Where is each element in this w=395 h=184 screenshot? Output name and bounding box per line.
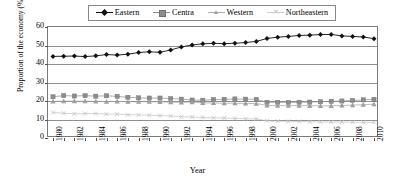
data-point xyxy=(168,47,173,52)
data-point xyxy=(51,95,55,99)
data-point xyxy=(254,97,258,101)
chart-figure: Eastern Centra Western ✕ Northeastern Pr… xyxy=(0,0,395,184)
legend-marker-square-icon xyxy=(153,9,170,17)
data-point xyxy=(329,99,333,103)
data-point xyxy=(62,94,66,98)
data-point xyxy=(318,32,323,37)
data-point xyxy=(233,97,237,101)
data-point xyxy=(222,41,227,46)
x-tick-mark xyxy=(53,138,54,141)
data-point xyxy=(126,95,130,99)
chart-legend: Eastern Centra Western ✕ Northeastern xyxy=(88,5,336,21)
x-tick-label: 2002 xyxy=(290,126,299,141)
data-point xyxy=(51,54,56,59)
data-point xyxy=(265,36,270,41)
data-point xyxy=(158,50,163,55)
y-tick-label: 10 xyxy=(26,115,44,123)
x-tick-label: 2010 xyxy=(376,126,385,141)
x-tick-label: 1984 xyxy=(98,126,107,141)
data-point xyxy=(307,33,312,38)
legend-label: Centra xyxy=(172,9,194,17)
data-point xyxy=(340,99,344,103)
x-tick-label: 1994 xyxy=(205,126,214,141)
data-point xyxy=(94,94,98,98)
x-tick-mark xyxy=(85,138,86,141)
data-point xyxy=(93,53,98,58)
data-point xyxy=(125,52,130,57)
data-point xyxy=(361,98,365,102)
x-axis-title: Year xyxy=(0,166,395,175)
x-tick-mark xyxy=(192,138,193,141)
legend-marker-diamond-icon xyxy=(96,9,113,17)
legend-label: Western xyxy=(227,9,254,17)
x-tick-label: 1980 xyxy=(55,126,64,141)
legend-item-centra[interactable]: Centra xyxy=(153,9,194,17)
x-tick-mark xyxy=(96,138,97,141)
data-point xyxy=(361,34,366,39)
data-point xyxy=(372,97,376,101)
series-eastern xyxy=(51,32,377,59)
data-point xyxy=(72,54,77,59)
data-point xyxy=(104,52,109,57)
y-tick-label: 60 xyxy=(26,22,44,30)
x-tick-label: 2004 xyxy=(312,126,321,141)
legend-item-northeastern[interactable]: ✕ Northeastern xyxy=(267,9,328,17)
series-canvas xyxy=(48,27,379,138)
data-point xyxy=(104,94,108,98)
x-tick-label: 1998 xyxy=(248,126,257,141)
series-northeastern xyxy=(51,110,376,124)
y-tick-label: 50 xyxy=(26,41,44,49)
data-point xyxy=(350,34,355,39)
legend-marker-cross-icon: ✕ xyxy=(267,9,284,17)
data-point xyxy=(275,35,280,40)
data-point xyxy=(179,44,184,49)
data-point xyxy=(329,32,334,37)
data-point xyxy=(339,33,344,38)
data-point xyxy=(211,41,216,46)
x-tick-mark xyxy=(374,138,375,141)
data-point xyxy=(372,36,377,41)
x-tick-mark xyxy=(299,138,300,141)
y-tick-label: 30 xyxy=(26,78,44,86)
data-point xyxy=(297,33,302,38)
y-axis-title: Proportion of the economy (%) xyxy=(16,0,25,105)
data-point xyxy=(136,50,141,55)
x-tick-mark xyxy=(235,138,236,141)
x-tick-mark xyxy=(128,138,129,141)
x-tick-mark xyxy=(246,138,247,141)
data-point xyxy=(61,54,66,59)
data-point xyxy=(232,41,237,46)
data-point xyxy=(286,34,291,39)
x-tick-mark xyxy=(310,138,311,141)
x-tick-label: 2000 xyxy=(269,126,278,141)
x-tick-mark xyxy=(353,138,354,141)
x-tick-label: 1986 xyxy=(119,126,128,141)
data-point xyxy=(200,41,205,46)
legend-marker-triangle-icon xyxy=(208,9,225,17)
x-tick-label: 2006 xyxy=(333,126,342,141)
plot-area xyxy=(47,26,378,137)
x-tick-label: 1982 xyxy=(76,126,85,141)
x-tick-mark xyxy=(267,138,268,141)
data-point xyxy=(115,94,119,98)
y-tick-label: 0 xyxy=(26,133,44,141)
x-tick-mark xyxy=(160,138,161,141)
x-tick-label: 2008 xyxy=(355,126,364,141)
y-tick-mark xyxy=(45,138,48,139)
y-tick-label: 20 xyxy=(26,96,44,104)
data-point xyxy=(83,94,87,98)
data-point xyxy=(351,98,355,102)
x-tick-label: 1990 xyxy=(162,126,171,141)
x-tick-label: 1996 xyxy=(226,126,235,141)
x-tick-label: 1988 xyxy=(141,126,150,141)
data-point xyxy=(371,102,376,107)
data-point xyxy=(83,54,88,59)
data-point xyxy=(115,53,120,58)
data-point xyxy=(243,40,248,45)
legend-item-eastern[interactable]: Eastern xyxy=(96,9,140,17)
legend-label: Eastern xyxy=(115,9,140,17)
x-tick-mark xyxy=(203,138,204,141)
legend-item-western[interactable]: Western xyxy=(208,9,254,17)
y-tick-label: 40 xyxy=(26,59,44,67)
x-tick-mark xyxy=(139,138,140,141)
